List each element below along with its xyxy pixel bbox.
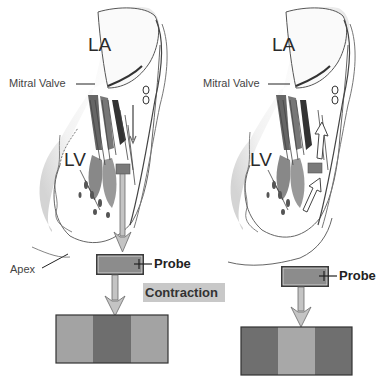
left-doppler-strip (56, 315, 168, 363)
left-lv-label: LV (64, 149, 86, 171)
left-downward-arrow (114, 174, 131, 252)
right-mitral-valve-label: Mitral Valve (203, 77, 260, 89)
left-probe-label: Probe (154, 256, 191, 271)
left-probe-output-arrow (105, 275, 125, 316)
left-la-label: LA (88, 34, 111, 56)
apex-leader (42, 254, 68, 268)
right-doppler-strip (241, 327, 352, 375)
left-mitral-valve-label: Mitral Valve (9, 77, 66, 89)
contraction-label: Contraction (143, 283, 225, 302)
right-probe (281, 266, 337, 287)
apex-label: Apex (10, 263, 35, 275)
right-probe-output-arrow (291, 287, 311, 327)
right-la-label: LA (272, 34, 295, 56)
right-probe-label: Probe (339, 268, 376, 283)
left-sample-volume (116, 164, 130, 174)
diagram-canvas (0, 0, 380, 382)
left-probe (96, 254, 152, 275)
right-sample-volume (308, 163, 322, 173)
right-lv-label: LV (250, 149, 272, 171)
